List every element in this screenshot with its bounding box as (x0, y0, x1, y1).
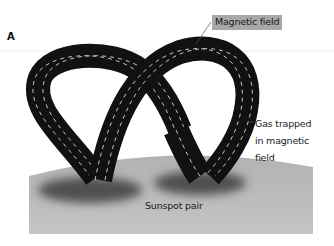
sunspot-pair-label: Sunspot pair (145, 200, 203, 211)
magnetic-field-label: Magnetic field (212, 15, 282, 30)
panel-label: A (7, 31, 15, 42)
sunspot-magnetic-field-diagram: A Magnetic field Gas trapped in magnetic… (0, 0, 334, 246)
gas-trapped-label: Gas trapped in magnetic field (255, 115, 334, 166)
